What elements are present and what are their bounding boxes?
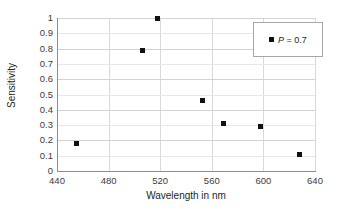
x-axis-title: Wavelength in nm	[57, 190, 315, 201]
x-tick-label: 560	[192, 175, 232, 186]
x-tick-label: 600	[243, 175, 283, 186]
x-tick-label: 520	[140, 175, 180, 186]
x-tick-label: 440	[37, 175, 77, 186]
y-axis-title: Sensitivity	[6, 41, 17, 131]
chart-legend: P = 0.7	[253, 22, 323, 57]
legend-entry: P = 0.7	[269, 35, 307, 45]
x-tick-label: 480	[89, 175, 129, 186]
x-tick-label: 640	[295, 175, 335, 186]
legend-marker-icon	[269, 37, 274, 42]
legend-label: P = 0.7	[278, 35, 307, 45]
scatter-chart: 00.10.20.30.40.50.60.70.80.91 4404805205…	[0, 0, 342, 215]
